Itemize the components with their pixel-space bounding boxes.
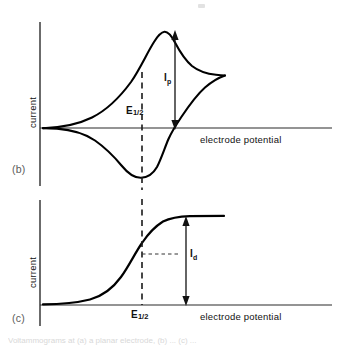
panel-c-label: (c) [12,312,25,324]
panel-b-graph [40,22,332,190]
figure-root: current electrode potential Ip E1/2 (b) … [0,0,340,347]
panel-c-graph [40,199,332,326]
panel-c-ehalf-symbol: E [131,309,138,320]
panel-c-x-axis-label: electrode potential [200,311,281,322]
panel-b-ehalf-subscript: 1/2 [133,108,143,117]
voltammogram-figure [0,0,340,347]
panel-c-ehalf-subscript: 1/2 [138,312,148,321]
scan-artifact-speck [198,4,205,8]
panel-b-label: (b) [12,163,25,175]
panel-b-y-axis-label: current [27,97,38,128]
panel-c-halfwave-potential-label: E1/2 [131,309,148,321]
panel-c-id-subscript: d [193,254,197,261]
panel-b-halfwave-potential-label: E1/2 [126,105,143,117]
panel-b-peak-current-label: Ip [164,72,171,85]
cropped-caption-fragment: Voltammograms at (a) a planar electrode,… [8,336,338,346]
panel-b-ehalf-symbol: E [126,105,133,116]
panel-c-diffusion-current-label: Id [190,248,197,261]
panel-b-ip-subscript: p [167,78,171,85]
panel-b-ip-arrowhead-up [171,30,178,40]
panel-b-cathodic-sweep-curve [43,76,225,178]
panel-c-y-axis-label: current [27,257,38,288]
panel-b-x-axis-label: electrode potential [200,134,281,145]
